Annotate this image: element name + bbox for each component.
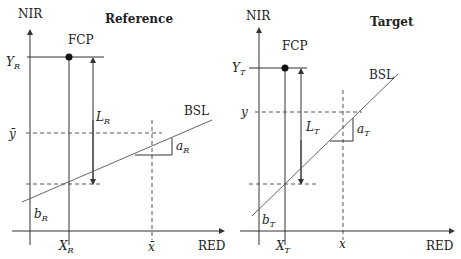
x-label: x (339, 237, 346, 251)
bsl-label: BSL (369, 68, 394, 82)
x-mean-label: x̄ (148, 240, 155, 254)
diagram-canvas: Reference NIR RED FCP YR XR LR ȳ x̄ BSL … (0, 0, 461, 259)
x-fcp-label: XT (275, 239, 291, 255)
target-title: Target (370, 15, 414, 29)
y-mean-label: ȳ (8, 127, 16, 141)
fcp-label: FCP (282, 39, 308, 53)
nir-axis-label: NIR (18, 7, 43, 21)
red-axis-label: RED (426, 239, 453, 253)
fcp-point (66, 54, 73, 61)
y-fcp-label: YR (6, 55, 20, 71)
intercept-label: bT (262, 213, 276, 229)
slope-label: aT (357, 122, 370, 138)
y-label: y (240, 105, 248, 119)
target-panel: Target NIR RED FCP YT XT LT y x BSL aT b… (232, 9, 453, 255)
fcp-point (282, 65, 289, 72)
y-fcp-label: YT (232, 61, 246, 77)
bsl-line (252, 74, 398, 216)
slope-label: aR (176, 139, 189, 155)
nir-axis-label: NIR (246, 9, 271, 23)
length-label: LR (95, 110, 110, 126)
reference-panel: Reference NIR RED FCP YR XR LR ȳ x̄ BSL … (6, 7, 225, 255)
reference-title: Reference (105, 12, 173, 26)
slope-triangle (135, 138, 172, 155)
length-label: LT (305, 120, 320, 136)
red-axis-label: RED (198, 239, 225, 253)
fcp-label: FCP (68, 33, 94, 47)
x-fcp-label: XR (58, 239, 74, 255)
bsl-label: BSL (184, 104, 209, 118)
intercept-label: bR (34, 207, 48, 223)
bsl-line (22, 120, 212, 202)
